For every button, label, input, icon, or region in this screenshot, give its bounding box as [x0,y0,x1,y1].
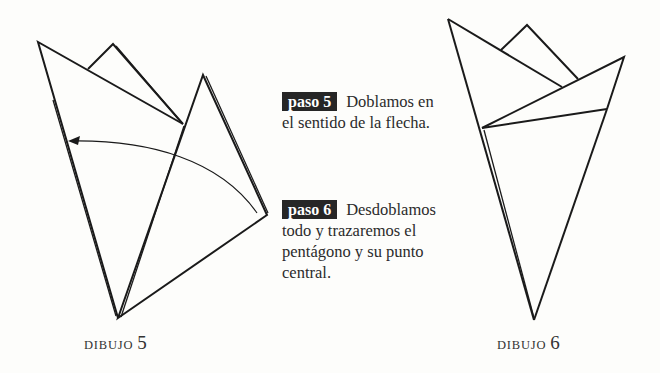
caption-number: 6 [550,332,560,353]
caption-word: DIBUJO [497,338,546,352]
step-text-line: Desdoblamos [346,200,436,219]
step-text-line: central. [282,263,331,282]
step-text-line: Doblamos en [346,92,434,111]
arrow-head-icon [68,136,80,145]
step-badge: paso 6 [282,200,337,219]
drawing-6 [448,19,624,320]
step-text-line: el sentido de la flecha. [282,113,430,132]
caption-number: 5 [137,332,147,353]
step-badge: paso 5 [282,92,337,111]
step-text-line: pentágono y su punto [282,242,424,261]
figure-6-caption: DIBUJO 6 [497,332,560,354]
step-text-line: todo y trazaremos el [282,221,416,240]
drawing-5 [38,42,268,318]
figure-5-caption: DIBUJO 5 [84,332,147,354]
step-6-instruction: paso 6Desdoblamos todo y trazaremos el p… [282,199,436,283]
origami-diagrams [0,0,660,373]
step-5-instruction: paso 5Doblamos en el sentido de la flech… [282,91,434,133]
caption-word: DIBUJO [84,338,133,352]
